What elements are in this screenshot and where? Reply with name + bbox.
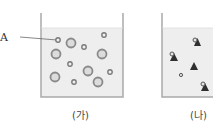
caption-ga: (가) bbox=[72, 107, 89, 122]
label-a: A bbox=[0, 31, 8, 44]
liquid-ga bbox=[41, 28, 123, 97]
diagram-canvas bbox=[0, 0, 213, 129]
caption-na: (나) bbox=[190, 107, 207, 122]
beaker-ga bbox=[20, 13, 123, 97]
beaker-na bbox=[162, 13, 213, 97]
